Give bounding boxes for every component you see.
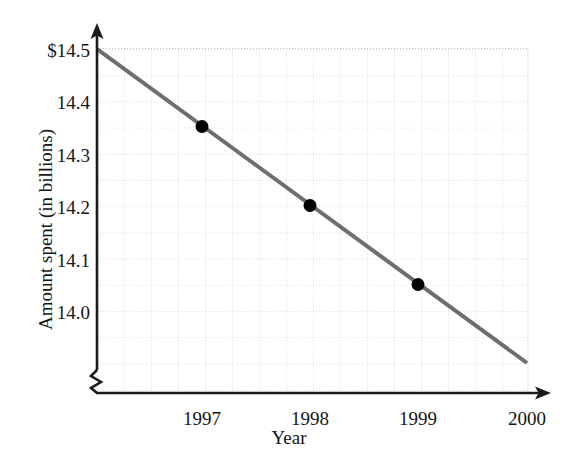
y-tick-label-0: $14.5 — [20, 41, 90, 60]
data-point-1997 — [196, 120, 209, 133]
x-tick-label-1: 1998 — [270, 409, 350, 428]
x-tick-label-0: 1997 — [162, 409, 242, 428]
chart-plot-area — [0, 0, 578, 461]
y-axis-title: Amount spent (in billions) — [36, 129, 55, 330]
grid-lines — [97, 49, 528, 394]
data-point-1999 — [412, 278, 425, 291]
y-tick-label-1: 14.4 — [20, 93, 90, 112]
x-tick-label-2: 1999 — [378, 409, 458, 428]
line-chart: $14.5 14.4 14.3 14.2 14.1 14.0 1997 1998… — [0, 0, 578, 461]
x-axis-title: Year — [0, 428, 578, 447]
x-tick-label-3: 2000 — [487, 409, 567, 428]
data-point-1998 — [304, 199, 317, 212]
